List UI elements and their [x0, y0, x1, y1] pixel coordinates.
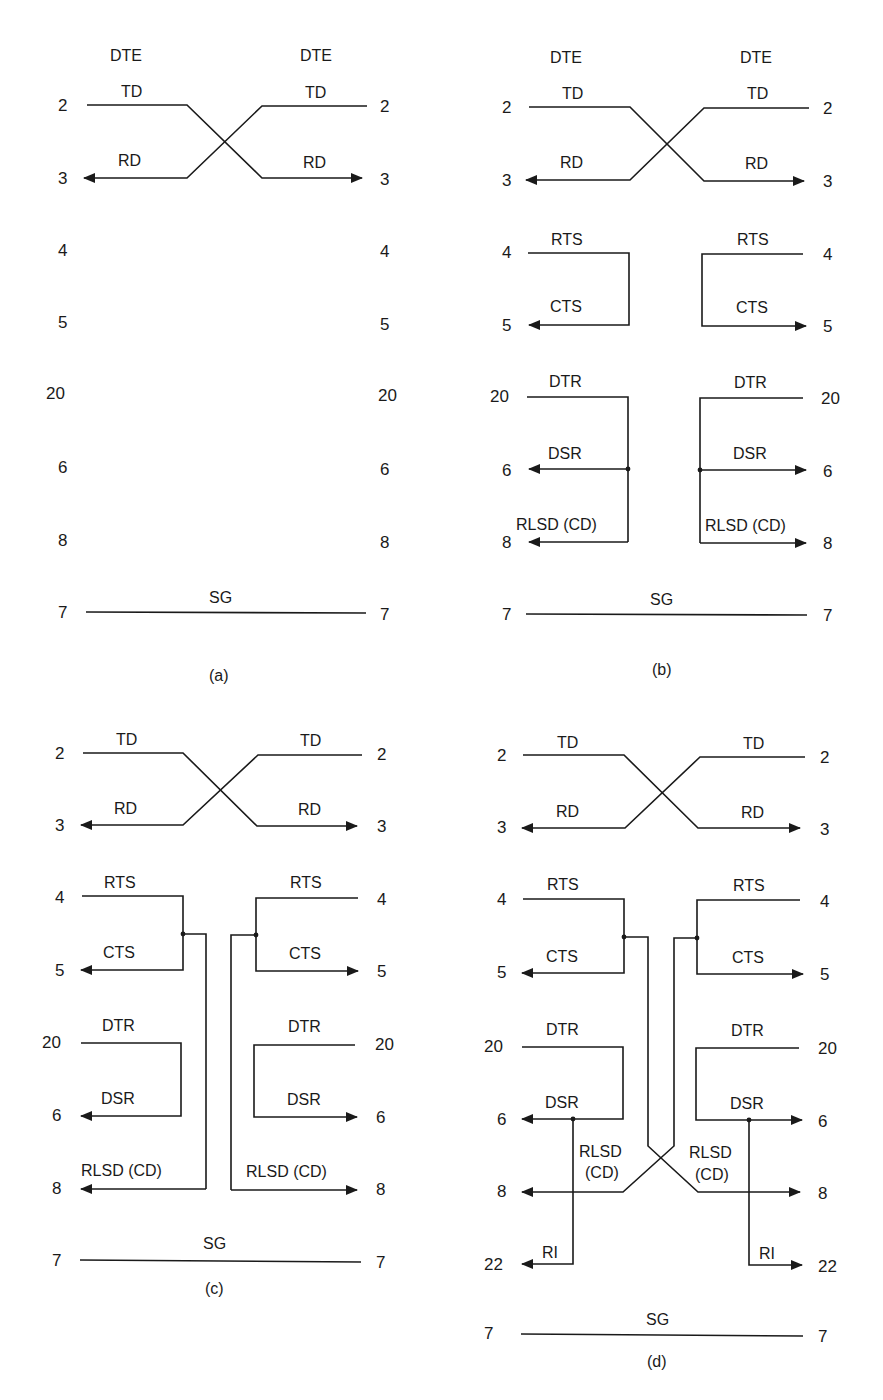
pin-3-left: 3: [58, 169, 67, 188]
pin-8-right: 8: [380, 533, 389, 552]
pin-2-right: 2: [377, 745, 386, 764]
pin-5-left: 5: [55, 961, 64, 980]
rlsd-label-right-line1: RLSD: [689, 1144, 732, 1161]
rlsd-label-left-line1: RLSD: [579, 1143, 622, 1160]
pin-7-left: 7: [502, 605, 511, 624]
caption-d: (d): [647, 1353, 667, 1370]
td-label-right: TD: [747, 85, 768, 102]
rd-label-right: RD: [298, 801, 321, 818]
cts-label-left: CTS: [103, 944, 135, 961]
rd-label-left: RD: [560, 154, 583, 171]
dte-right-header: DTE: [300, 47, 332, 64]
rd-label-left: RD: [118, 152, 141, 169]
sg-label: SG: [646, 1311, 669, 1328]
junction-dot: [181, 932, 186, 937]
pin-8-right: 8: [823, 534, 832, 553]
rts-label-left: RTS: [104, 874, 136, 891]
dtr-label-left: DTR: [102, 1017, 135, 1034]
pin-22-right: 22: [818, 1257, 837, 1276]
dtr-label-right: DTR: [734, 374, 767, 391]
caption-c: (c): [205, 1280, 224, 1297]
rts-label-right: RTS: [290, 874, 322, 891]
panel-b: DTE DTE 2 3 4 5 20 6 8 7 2 3 4 5 20 6 8 …: [490, 49, 840, 678]
pin-7-left: 7: [52, 1251, 61, 1270]
pin-20-left: 20: [42, 1033, 61, 1052]
dtr-label-right: DTR: [288, 1018, 321, 1035]
pin-2-left: 2: [497, 746, 506, 765]
rlsd-label-right-line2: (CD): [695, 1166, 729, 1183]
pin-4-left: 4: [55, 888, 64, 907]
rd-label-right: RD: [303, 154, 326, 171]
pin-20-right: 20: [818, 1039, 837, 1058]
pin-2-right: 2: [380, 97, 389, 116]
pin-2-right: 2: [823, 99, 832, 118]
pin-20-left: 20: [490, 387, 509, 406]
pin-5-left: 5: [502, 316, 511, 335]
pin-20-right: 20: [378, 386, 397, 405]
pin-6-right: 6: [823, 462, 832, 481]
pin-5-right: 5: [380, 315, 389, 334]
dsr-label-right: DSR: [733, 445, 767, 462]
rts-to-remote-rlsd-wire: [231, 935, 256, 1190]
dtr-label-right: DTR: [731, 1022, 764, 1039]
ri-label-left: RI: [542, 1244, 558, 1261]
pin-4-left: 4: [497, 890, 506, 909]
cts-label-left: CTS: [546, 948, 578, 965]
pin-20-left: 20: [484, 1037, 503, 1056]
dsr-label-left: DSR: [545, 1094, 579, 1111]
dte-left-header: DTE: [550, 49, 582, 66]
pin-6-right: 6: [380, 460, 389, 479]
rlsd-label-left: RLSD (CD): [516, 516, 597, 533]
pin-7-right: 7: [376, 1253, 385, 1272]
dtr-label-left: DTR: [549, 373, 582, 390]
pin-8-left: 8: [52, 1179, 61, 1198]
pin-6-left: 6: [58, 458, 67, 477]
pin-4-right: 4: [377, 890, 386, 909]
rd-label-left: RD: [114, 800, 137, 817]
sg-wire: [521, 1334, 803, 1336]
panel-c: 2 3 4 5 20 6 8 7 2 3 4 5 20 6 8 7 TD RD …: [42, 731, 394, 1297]
cts-label-right: CTS: [289, 945, 321, 962]
sg-wire: [86, 612, 366, 613]
pin-20-right: 20: [821, 389, 840, 408]
rts-to-remote-rlsd-wire: [183, 934, 206, 1189]
pin-4-left: 4: [502, 243, 511, 262]
pin-6-left: 6: [502, 461, 511, 480]
junction-dot: [254, 933, 259, 938]
td-label-left: TD: [121, 83, 142, 100]
pin-7-right: 7: [823, 606, 832, 625]
panel-d: 2 3 4 5 20 6 8 22 7 2 3 4 5 20 6 8 22 7 …: [484, 734, 837, 1370]
rts-label-right: RTS: [737, 231, 769, 248]
pin-2-left: 2: [502, 98, 511, 117]
td-label-left: TD: [557, 734, 578, 751]
pin-3-right: 3: [377, 817, 386, 836]
pin-7-right: 7: [818, 1327, 827, 1346]
dsr-label-left: DSR: [548, 445, 582, 462]
td-label-left: TD: [116, 731, 137, 748]
pin-5-right: 5: [823, 317, 832, 336]
pin-20-left: 20: [46, 384, 65, 403]
td-label-right: TD: [743, 735, 764, 752]
sg-wire: [526, 614, 807, 615]
rlsd-label-right: RLSD (CD): [705, 517, 786, 534]
pin-5-right: 5: [377, 962, 386, 981]
pin-3-left: 3: [55, 816, 64, 835]
junction-dot: [698, 468, 703, 473]
ri-label-right: RI: [759, 1245, 775, 1262]
pin-20-right: 20: [375, 1035, 394, 1054]
panel-a: DTE DTE 2 3 4 5 20 6 8 7 2 3 4 5 20 6 8 …: [46, 47, 397, 684]
pin-5-left: 5: [497, 963, 506, 982]
pin-7-left: 7: [58, 603, 67, 622]
rd-label-right: RD: [741, 804, 764, 821]
pin-8-left: 8: [502, 533, 511, 552]
rlsd-label-right: RLSD (CD): [246, 1163, 327, 1180]
rts-label-right: RTS: [733, 877, 765, 894]
rlsd-label-left: RLSD (CD): [81, 1162, 162, 1179]
td-label-right: TD: [305, 84, 326, 101]
pin-22-left: 22: [484, 1255, 503, 1274]
cts-label-right: CTS: [736, 299, 768, 316]
caption-a: (a): [209, 667, 229, 684]
rd-label-left: RD: [556, 803, 579, 820]
dte-right-header: DTE: [740, 49, 772, 66]
pin-3-right: 3: [820, 820, 829, 839]
